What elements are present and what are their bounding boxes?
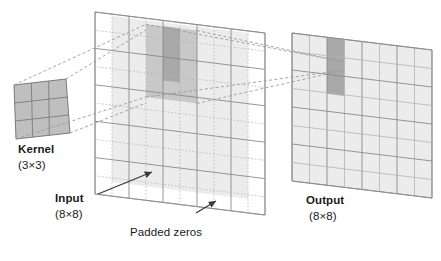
kernel-size-label: (3×3): [18, 159, 46, 171]
output-plane: [292, 33, 432, 198]
input-label: Input: [55, 192, 84, 204]
kernel-plane: [14, 79, 70, 139]
kernel-face: [14, 79, 70, 139]
kernel-label: Kernel: [18, 143, 54, 155]
output-size-label: (8×8): [309, 210, 337, 222]
input-size-label: (8×8): [55, 208, 83, 220]
output-label: Output: [306, 194, 344, 206]
output-highlight-cell: [327, 37, 345, 96]
input-highlight-core: [163, 26, 180, 82]
diagram-canvas: [0, 0, 441, 261]
padded-zeros-label: Padded zeros: [130, 226, 202, 238]
convolution-diagram: Kernel (3×3) Input (8×8) Padded zeros Ou…: [0, 0, 441, 261]
